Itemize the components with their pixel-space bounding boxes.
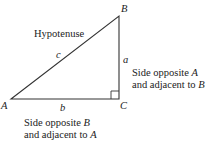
- side-b-label: b: [60, 102, 65, 114]
- desc-b-var1: B: [84, 117, 90, 128]
- desc-b-line2: and adjacent to: [24, 129, 90, 140]
- desc-a-line2: and adjacent to: [132, 79, 198, 90]
- vertex-label-b: B: [121, 3, 127, 15]
- desc-b-line1: Side opposite: [24, 117, 84, 128]
- desc-a-var1: A: [192, 67, 198, 78]
- vertex-label-c: C: [120, 100, 127, 112]
- desc-a-var2: B: [198, 79, 204, 90]
- side-b-description: Side opposite B and adjacent to A: [24, 117, 97, 141]
- hypotenuse-label: Hypotenuse: [34, 28, 84, 40]
- right-angle-marker: [111, 91, 119, 99]
- side-c-label: c: [56, 49, 61, 61]
- vertex-label-a: A: [1, 100, 7, 112]
- desc-b-var2: A: [90, 129, 96, 140]
- desc-a-line1: Side opposite: [132, 67, 192, 78]
- side-a-description: Side opposite A and adjacent to B: [132, 67, 205, 91]
- side-a-label: a: [123, 54, 128, 66]
